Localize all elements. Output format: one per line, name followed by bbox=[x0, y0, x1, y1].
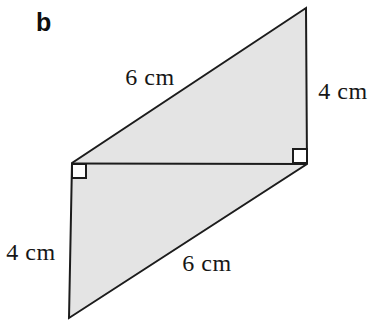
geometry-figure: b 6 cm 4 cm 4 cm 6 cm bbox=[0, 0, 373, 323]
part-label: b bbox=[36, 8, 51, 36]
label-left-side: 4 cm bbox=[6, 239, 55, 265]
triangle-parallelogram-diagram: b 6 cm 4 cm 4 cm 6 cm bbox=[0, 0, 373, 323]
label-bottom-side: 6 cm bbox=[182, 250, 231, 276]
right-angle-marker-right bbox=[293, 149, 307, 163]
right-angle-marker-left bbox=[72, 164, 86, 178]
label-right-side: 4 cm bbox=[318, 78, 367, 104]
diagonal-line bbox=[72, 164, 307, 165]
label-top-side: 6 cm bbox=[125, 64, 174, 90]
